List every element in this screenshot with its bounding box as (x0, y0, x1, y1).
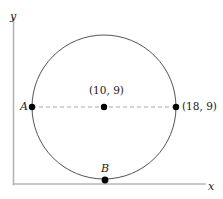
point-center-dot (101, 104, 107, 110)
point-b-dot (102, 177, 109, 184)
geometry-figure: y x A (10, 9) (18, 9) B (0, 0, 223, 199)
point-b-label: B (101, 163, 109, 174)
point-center-label: (10, 9) (89, 85, 124, 96)
point-right-dot (173, 104, 179, 110)
point-a-label: A (20, 101, 28, 112)
y-axis-label: y (10, 11, 16, 22)
point-right-label: (18, 9) (182, 101, 217, 112)
point-a-dot (29, 104, 35, 110)
x-axis-label: x (208, 181, 214, 192)
